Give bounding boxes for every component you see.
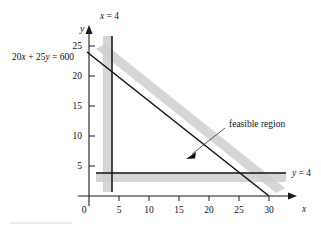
x-axis-label: x <box>301 204 307 214</box>
label-diag-b: 25 <box>36 52 46 62</box>
feasible-region-label: feasible region <box>229 119 285 129</box>
y-axis-arrowhead <box>85 25 92 34</box>
x-tick-marks <box>119 196 269 201</box>
feasible-region-arrowhead <box>186 152 196 159</box>
label-constraint-diagonal: 20x + 25y = 600 <box>12 52 74 62</box>
x-tick-label-20: 20 <box>204 205 214 215</box>
label-diag-plus: + <box>26 52 36 62</box>
label-diag-eq: = 600 <box>50 52 75 62</box>
label-constraint-y-equals-4: y = 4 <box>291 168 311 178</box>
y-axis-label: y <box>79 24 85 34</box>
y-tick-label-15: 15 <box>73 101 83 111</box>
y-tick-label-25: 25 <box>73 41 83 51</box>
graph-svg: 0 5 10 15 20 25 30 5 10 15 20 25 x y x =… <box>0 0 321 229</box>
feasible-region-graph: 0 5 10 15 20 25 30 5 10 15 20 25 x y x =… <box>0 0 321 229</box>
x-axis-arrowhead <box>288 192 297 199</box>
label-constraint-x-equals-4: x = 4 <box>99 11 119 21</box>
x-tick-label-0: 0 <box>82 205 87 215</box>
label-x-rest: = 4 <box>104 11 119 21</box>
x-tick-label-15: 15 <box>174 205 184 215</box>
shading-group <box>96 36 286 193</box>
x-tick-label-5: 5 <box>117 205 122 215</box>
y-tick-label-10: 10 <box>73 131 83 141</box>
y-tick-marks <box>89 46 95 166</box>
x-tick-label-10: 10 <box>144 205 154 215</box>
y-tick-label-5: 5 <box>77 161 82 171</box>
label-diag-a: 20 <box>12 52 22 62</box>
x-tick-label-30: 30 <box>264 205 274 215</box>
x-tick-labels: 0 5 10 15 20 25 30 <box>82 205 274 215</box>
x-tick-label-25: 25 <box>234 205 244 215</box>
y-tick-label-20: 20 <box>73 71 83 81</box>
label-y-rest: = 4 <box>296 168 311 178</box>
